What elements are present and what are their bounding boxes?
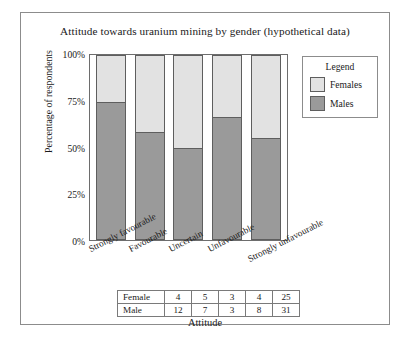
x-axis-title: Attitude [21, 317, 389, 328]
legend: Legend Females Males [302, 56, 378, 118]
bar-segment-females[interactable] [213, 56, 241, 117]
legend-title: Legend [303, 61, 377, 72]
table-row-header: Male [118, 304, 165, 317]
legend-item-males: Males [310, 96, 353, 111]
bar-segment-males[interactable] [174, 148, 202, 240]
data-table: Female453425Male1273831 [117, 290, 300, 317]
chart-title: Attitude towards uranium mining by gende… [21, 25, 389, 37]
y-tick-label: 0% [39, 236, 85, 247]
x-axis-tick-labels: Strongly favourableFavourableUncertainUn… [89, 243, 288, 289]
legend-label-males: Males [330, 98, 353, 109]
table-row-header: Female [118, 291, 165, 304]
table-row: Female453425 [118, 291, 300, 304]
bar-segment-females[interactable] [252, 56, 280, 138]
y-tick-label: 100% [39, 49, 85, 60]
bar-stack[interactable] [212, 55, 242, 240]
plot-area [89, 54, 288, 241]
y-tick-label: 50% [39, 142, 85, 153]
bar-stack[interactable] [96, 55, 126, 240]
y-tick-label: 75% [39, 95, 85, 106]
legend-swatch-females [310, 77, 325, 92]
bar-segment-males[interactable] [97, 102, 125, 239]
table-cell: 8 [246, 304, 273, 317]
y-axis-tick-labels: 100% 75% 50% 25% 0% [37, 54, 85, 241]
bar-segment-females[interactable] [97, 56, 125, 102]
table-cell: 4 [165, 291, 192, 304]
table-cell: 3 [219, 304, 246, 317]
table-cell: 5 [192, 291, 219, 304]
bar-segment-females[interactable] [136, 56, 164, 132]
bar-segment-males[interactable] [252, 138, 280, 239]
bar-stack[interactable] [251, 55, 281, 240]
bar-group [90, 55, 287, 240]
legend-item-females: Females [310, 77, 362, 92]
table-cell: 3 [219, 291, 246, 304]
table-cell: 4 [246, 291, 273, 304]
table-cell: 7 [192, 304, 219, 317]
figure-frame: Attitude towards uranium mining by gende… [20, 12, 390, 325]
table-cell: 25 [273, 291, 300, 304]
bar-segment-females[interactable] [174, 56, 202, 148]
legend-swatch-males [310, 96, 325, 111]
table-row: Male1273831 [118, 304, 300, 317]
y-tick-label: 25% [39, 189, 85, 200]
table-cell: 12 [165, 304, 192, 317]
bar-stack[interactable] [173, 55, 203, 240]
bar-segment-males[interactable] [213, 117, 241, 239]
data-table-body: Female453425Male1273831 [118, 291, 300, 317]
legend-label-females: Females [330, 79, 362, 90]
table-cell: 31 [273, 304, 300, 317]
